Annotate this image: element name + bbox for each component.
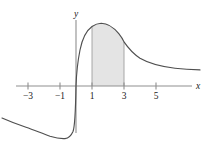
graph-figure: −3 −1 1 3 5 x y bbox=[0, 0, 209, 149]
y-axis-label: y bbox=[73, 9, 79, 19]
x-tick-label-3: 3 bbox=[122, 91, 127, 101]
shaded-area-region bbox=[92, 23, 124, 86]
x-tick-label-minus3: −3 bbox=[23, 91, 33, 101]
x-tick-label-minus1: −1 bbox=[55, 91, 65, 101]
x-tick-label-5: 5 bbox=[154, 91, 159, 101]
function-plot: −3 −1 1 3 5 x y bbox=[0, 0, 209, 149]
x-tick-label-1: 1 bbox=[90, 91, 95, 101]
x-axis-label: x bbox=[195, 81, 201, 91]
